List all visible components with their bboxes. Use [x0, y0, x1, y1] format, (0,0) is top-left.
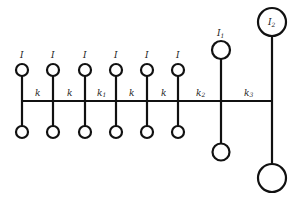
disk-top-4: [110, 64, 122, 76]
disk-label-3: I: [82, 50, 87, 60]
spring-label-7: k3: [244, 88, 253, 98]
disk-label-2: I: [50, 50, 55, 60]
disk-label-6: I: [175, 50, 180, 60]
disk-top-6: [172, 64, 184, 76]
disk-bottom-i2: [258, 164, 286, 192]
disk-top-5: [141, 64, 153, 76]
spring-label-6: k2: [196, 88, 205, 98]
spring-label-4: k: [129, 88, 134, 98]
spring-label-5: k: [161, 88, 166, 98]
spring-label-2: k: [67, 88, 72, 98]
disk-label-1: I: [19, 50, 24, 60]
disk-bottom-5: [141, 126, 153, 138]
disk-bottom-1: [16, 126, 28, 138]
disk-bottom-i1: [213, 144, 230, 161]
disk-top-i1: [212, 41, 230, 59]
spring-label-1: k: [35, 88, 40, 98]
disk-label-5: I: [144, 50, 149, 60]
disk-bottom-4: [110, 126, 122, 138]
disk-top-1: [16, 64, 28, 76]
disk-bottom-2: [47, 126, 59, 138]
disk-top-3: [79, 64, 91, 76]
disk-bottom-6: [172, 126, 184, 138]
torsional-system-diagram: I I I I I I I1 I2 k k k1 k k k2 k3: [0, 0, 300, 202]
disk-label-i1: I1: [216, 28, 224, 39]
disk-top-2: [47, 64, 59, 76]
disk-label-4: I: [113, 50, 118, 60]
spring-label-3: k1: [97, 88, 106, 98]
disk-bottom-3: [79, 126, 91, 138]
disk-label-i2: I2: [267, 17, 276, 28]
